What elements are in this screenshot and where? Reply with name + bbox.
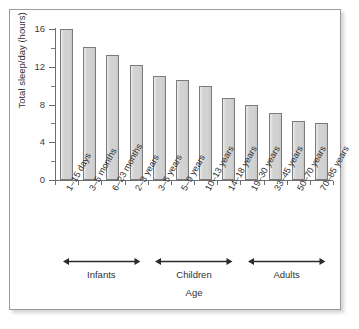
x-tick <box>287 181 288 185</box>
group-label: Children <box>155 269 233 280</box>
y-tick-major <box>49 142 55 143</box>
y-tick-major <box>49 29 55 30</box>
y-tick-minor <box>51 123 55 124</box>
y-tick-major <box>49 67 55 68</box>
y-tick-label: 8 <box>21 100 45 110</box>
y-tick-minor <box>51 161 55 162</box>
group-label: Infants <box>63 269 141 280</box>
x-tick <box>310 181 311 185</box>
y-tick-major <box>49 105 55 106</box>
y-tick-label: 16 <box>21 24 45 34</box>
group-range-arrow <box>248 257 326 266</box>
x-tick <box>125 181 126 185</box>
x-tick <box>194 181 195 185</box>
bar <box>60 29 73 180</box>
figure-canvas: Total sleep/day (hours) 0481216 1–15 day… <box>0 0 359 329</box>
bar-chart-plot: Total sleep/day (hours) 0481216 1–15 day… <box>0 0 359 329</box>
y-axis-line <box>55 28 56 181</box>
y-tick-label: 4 <box>21 137 45 147</box>
group-range-arrow <box>155 257 233 266</box>
x-axis-title: Age <box>164 287 224 298</box>
y-tick-minor <box>51 86 55 87</box>
x-tick <box>55 181 56 185</box>
y-tick-minor <box>51 48 55 49</box>
y-tick-label: 12 <box>21 62 45 72</box>
x-tick <box>264 181 265 185</box>
x-tick <box>171 181 172 185</box>
group-range-arrow <box>63 257 141 266</box>
group-label: Adults <box>248 269 326 280</box>
x-tick <box>148 181 149 185</box>
x-tick <box>333 181 334 185</box>
y-tick-label: 0 <box>21 175 45 185</box>
